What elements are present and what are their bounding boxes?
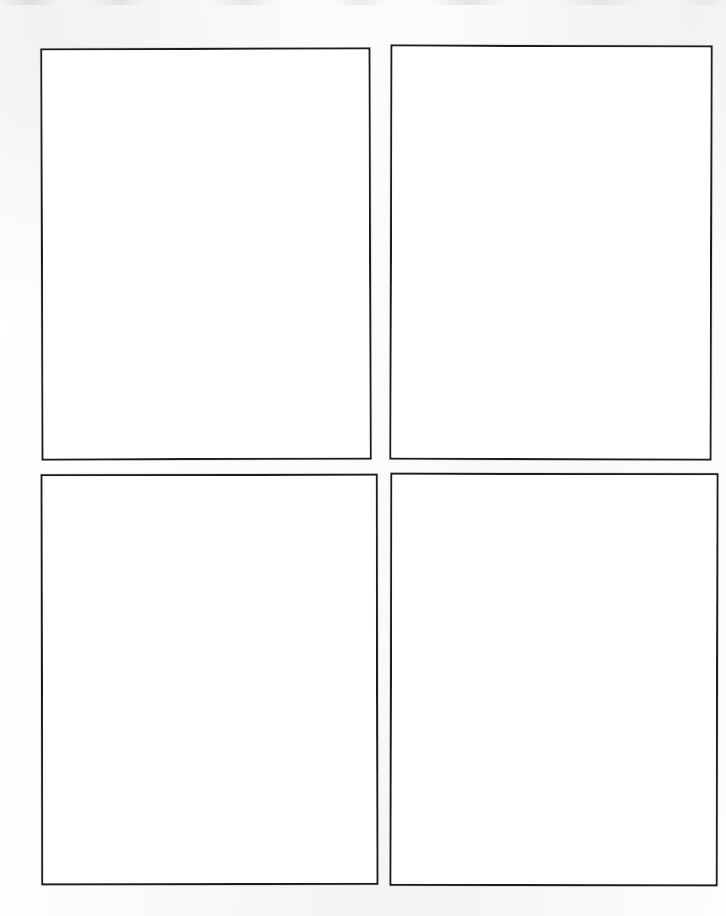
panel-top-right[interactable] [389,45,712,461]
panel-bottom-left-field[interactable] [43,476,377,884]
panel-bottom-right-field[interactable] [392,475,717,885]
panel-top-left[interactable] [40,47,371,460]
panel-bottom-right[interactable] [390,473,719,887]
panel-top-right-field[interactable] [391,47,710,459]
panel-top-left-field[interactable] [42,49,369,458]
scan-top-edge-artifact [0,0,726,5]
panel-bottom-left[interactable] [41,474,379,886]
page-surface [0,0,726,916]
